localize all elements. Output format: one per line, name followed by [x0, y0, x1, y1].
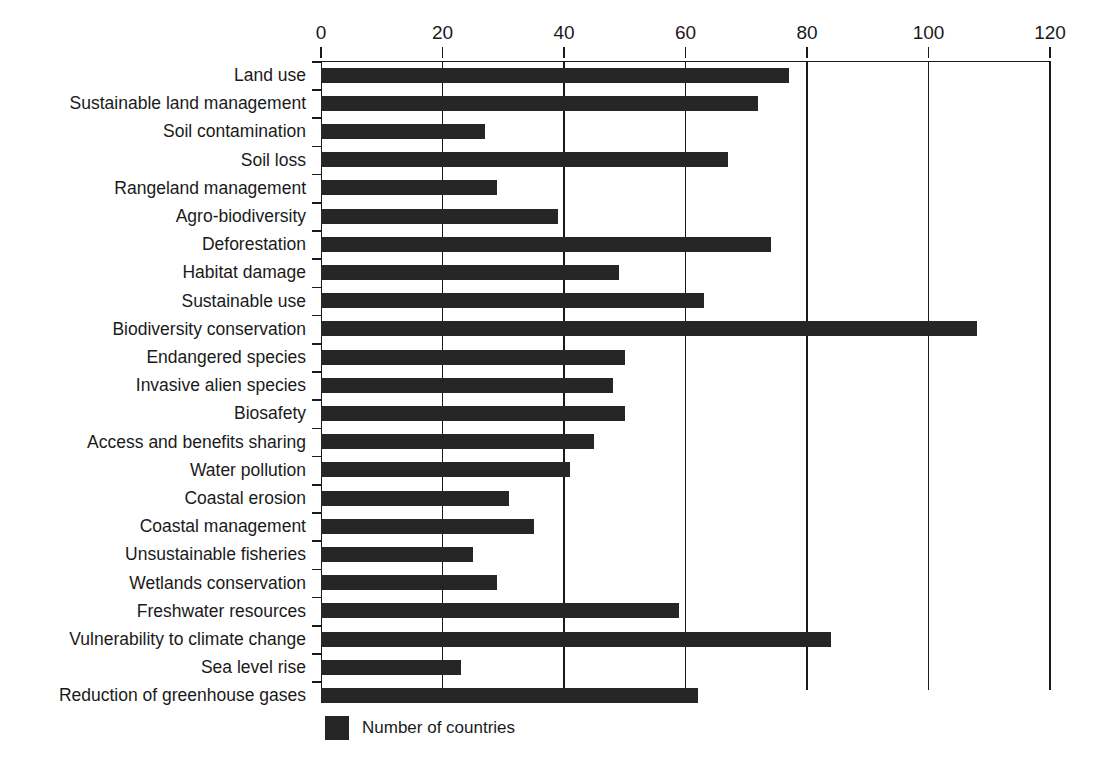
- bar: [321, 491, 509, 506]
- x-tick-mark: [685, 47, 687, 58]
- chart-legend: Number of countries: [325, 713, 515, 743]
- y-tick-mark: [312, 653, 321, 655]
- category-label: Soil loss: [0, 150, 306, 170]
- bar: [321, 660, 461, 675]
- bar: [321, 124, 485, 139]
- bar: [321, 293, 704, 308]
- bar: [321, 265, 619, 280]
- y-tick-mark: [312, 61, 321, 63]
- category-label: Coastal management: [0, 516, 306, 536]
- bar-row: [321, 146, 1050, 174]
- x-axis: 020406080100120: [0, 22, 1105, 50]
- category-label: Freshwater resources: [0, 601, 306, 621]
- bar: [321, 547, 473, 562]
- bar: [321, 575, 497, 590]
- bar: [321, 152, 728, 167]
- plot-area: [321, 61, 1050, 690]
- bar-row: [321, 681, 1050, 709]
- bar: [321, 434, 594, 449]
- category-label: Habitat damage: [0, 262, 306, 282]
- y-tick-mark: [312, 484, 321, 486]
- category-label: Agro-biodiversity: [0, 206, 306, 226]
- bar-row: [321, 258, 1050, 286]
- category-label: Rangeland management: [0, 178, 306, 198]
- bar-row: [321, 343, 1050, 371]
- bar-row: [321, 456, 1050, 484]
- x-tick-label: 40: [553, 22, 574, 44]
- category-label: Soil contamination: [0, 121, 306, 141]
- x-tick-mark: [928, 47, 930, 58]
- x-tick-label: 0: [316, 22, 327, 44]
- bar-row: [321, 315, 1050, 343]
- y-tick-mark: [312, 399, 321, 401]
- x-tick-mark: [320, 47, 322, 58]
- y-tick-mark: [312, 343, 321, 345]
- category-label: Water pollution: [0, 460, 306, 480]
- y-tick-mark: [312, 89, 321, 91]
- y-tick-mark: [312, 512, 321, 514]
- x-tick-mark: [1049, 47, 1051, 58]
- y-tick-mark: [312, 258, 321, 260]
- bar: [321, 180, 497, 195]
- y-tick-mark: [312, 681, 321, 683]
- bar: [321, 96, 758, 111]
- category-label: Wetlands conservation: [0, 573, 306, 593]
- bar: [321, 632, 831, 647]
- bar: [321, 237, 771, 252]
- legend-swatch-number-of-countries: [325, 716, 349, 740]
- y-tick-mark: [312, 315, 321, 317]
- category-label: Vulnerability to climate change: [0, 629, 306, 649]
- bar-rows: [321, 61, 1050, 690]
- bar: [321, 688, 698, 703]
- category-label: Reduction of greenhouse gases: [0, 685, 306, 705]
- bar: [321, 209, 558, 224]
- bar-row: [321, 371, 1050, 399]
- x-tick-label: 60: [675, 22, 696, 44]
- category-label: Biodiversity conservation: [0, 319, 306, 339]
- bar-row: [321, 174, 1050, 202]
- bar-row: [321, 89, 1050, 117]
- bar-row: [321, 653, 1050, 681]
- y-tick-mark: [312, 202, 321, 204]
- x-tick-mark: [442, 47, 444, 58]
- legend-label-number-of-countries: Number of countries: [362, 718, 515, 738]
- category-label: Deforestation: [0, 234, 306, 254]
- y-tick-mark: [312, 625, 321, 627]
- x-tick-label: 120: [1034, 22, 1066, 44]
- bar: [321, 603, 679, 618]
- x-tick-label: 100: [913, 22, 945, 44]
- category-label: Sustainable land management: [0, 93, 306, 113]
- bar-row: [321, 540, 1050, 568]
- y-tick-mark: [312, 230, 321, 232]
- bar: [321, 462, 570, 477]
- category-label: Sustainable use: [0, 291, 306, 311]
- bar-row: [321, 287, 1050, 315]
- bar-row: [321, 230, 1050, 258]
- category-label: Access and benefits sharing: [0, 432, 306, 452]
- x-tick-mark: [806, 47, 808, 58]
- category-label: Land use: [0, 65, 306, 85]
- y-tick-mark: [312, 174, 321, 176]
- bar-row: [321, 428, 1050, 456]
- bar-row: [321, 202, 1050, 230]
- category-label: Endangered species: [0, 347, 306, 367]
- y-tick-mark: [312, 456, 321, 458]
- bar-row: [321, 117, 1050, 145]
- category-label: Invasive alien species: [0, 375, 306, 395]
- horizontal-bar-chart: 020406080100120 Land useSustainable land…: [0, 0, 1105, 771]
- bar-row: [321, 484, 1050, 512]
- x-tick-label: 20: [432, 22, 453, 44]
- y-tick-mark: [312, 287, 321, 289]
- bar: [321, 350, 625, 365]
- category-label: Coastal erosion: [0, 488, 306, 508]
- category-label: Biosafety: [0, 403, 306, 423]
- y-tick-mark: [312, 371, 321, 373]
- bar: [321, 406, 625, 421]
- y-tick-mark: [312, 597, 321, 599]
- bar: [321, 519, 534, 534]
- y-tick-mark: [312, 540, 321, 542]
- bar: [321, 378, 613, 393]
- category-axis-labels: Land useSustainable land managementSoil …: [0, 61, 306, 690]
- bar-row: [321, 512, 1050, 540]
- y-tick-mark: [312, 146, 321, 148]
